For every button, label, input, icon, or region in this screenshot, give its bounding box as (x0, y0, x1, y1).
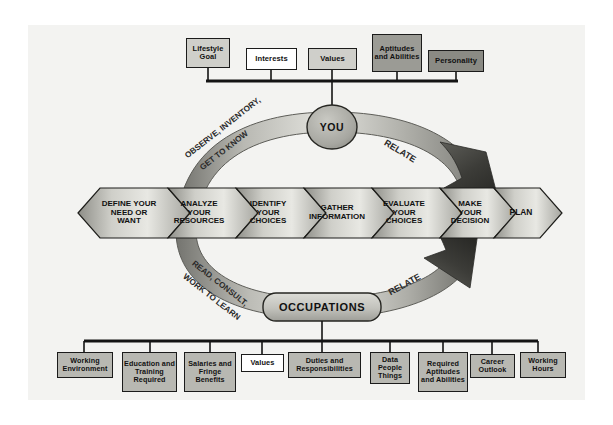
factor-label: Aptitudes and Abilities (373, 45, 421, 61)
factor-label: Personality (435, 57, 477, 65)
factor-label: Career Outlook (471, 358, 514, 374)
occupation-box-salaries-fringe[interactable]: Salaries and Fringe Benefits (184, 352, 236, 392)
process-chevron-band (78, 188, 562, 238)
occupations-node (263, 293, 381, 321)
factor-box-interests[interactable]: Interests (246, 48, 297, 70)
bottom-connector-tree (84, 321, 538, 354)
occupation-box-duties-responsibilities[interactable]: Duties and Responsibilities (288, 352, 361, 378)
factor-label: Interests (255, 55, 288, 63)
occupation-box-career-outlook[interactable]: Career Outlook (470, 354, 515, 378)
factor-label: Required Aptitudes and Abilities (419, 360, 467, 383)
factor-box-lifestyle-goal[interactable]: Lifestyle Goal (186, 38, 230, 68)
factor-label: Working Hours (521, 357, 565, 373)
factor-label: Duties and Responsibilities (289, 357, 360, 373)
factor-label: Working Environment (58, 357, 112, 373)
diagram-canvas: Lifestyle Goal Interests Values Aptitude… (0, 0, 613, 425)
factor-label: Values (320, 55, 345, 63)
you-node (307, 105, 357, 149)
occupation-box-education-training[interactable]: Education and Training Required (122, 352, 177, 392)
occupation-box-working-environment[interactable]: Working Environment (57, 352, 113, 378)
factor-label: Education and Training Required (123, 360, 176, 383)
factor-box-personality[interactable]: Personality (428, 50, 484, 72)
factor-box-aptitudes-abilities[interactable]: Aptitudes and Abilities (372, 34, 422, 72)
factor-box-values[interactable]: Values (308, 48, 357, 70)
occupation-box-data-people-things[interactable]: Data People Things (370, 352, 410, 384)
factor-label: Data People Things (371, 356, 409, 379)
top-connector-tree (206, 68, 458, 108)
factor-label: Salaries and Fringe Benefits (185, 360, 235, 383)
occupation-box-required-aptitudes[interactable]: Required Aptitudes and Abilities (418, 352, 468, 392)
factor-label: Values (250, 359, 274, 367)
occupation-box-values[interactable]: Values (241, 354, 284, 372)
factor-label: Lifestyle Goal (193, 45, 224, 61)
occupation-box-working-hours[interactable]: Working Hours (520, 352, 566, 378)
